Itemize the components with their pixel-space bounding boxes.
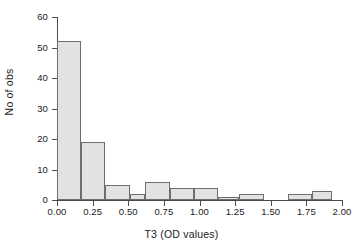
y-axis-tick <box>52 109 57 110</box>
histogram-bar <box>57 41 81 200</box>
histogram-bar <box>288 194 312 200</box>
y-axis-tick <box>52 78 57 79</box>
histogram-bar <box>239 194 263 200</box>
histogram-bar <box>312 191 332 200</box>
y-axis-tick-label: 20 <box>37 134 48 144</box>
histogram-chart: 0102030405060 0.000.250.500.751.001.251.… <box>0 0 363 248</box>
x-axis-tick-label: 0.25 <box>73 207 113 217</box>
x-axis-tick-label: 2.00 <box>322 207 362 217</box>
histogram-bar <box>194 188 218 200</box>
x-axis-tick-label: 1.25 <box>215 207 255 217</box>
histogram-bar <box>170 188 194 200</box>
y-axis-tick-label: 0 <box>43 195 48 205</box>
histogram-bar <box>81 142 105 200</box>
histogram-bar <box>105 185 129 200</box>
y-axis-tick-label: 60 <box>37 12 48 22</box>
x-axis-tick-label: 1.00 <box>180 207 220 217</box>
x-axis-tick-label: 0.75 <box>144 207 184 217</box>
y-axis-tick <box>52 170 57 171</box>
y-axis-tick <box>52 17 57 18</box>
histogram-bar <box>130 194 146 200</box>
x-axis-tick-label: 1.75 <box>286 207 326 217</box>
plot-area <box>57 17 342 200</box>
y-axis-tick-label: 40 <box>37 73 48 83</box>
y-axis-tick <box>52 48 57 49</box>
histogram-bar <box>218 197 239 200</box>
y-axis-tick <box>52 139 57 140</box>
y-axis-tick-label: 30 <box>37 104 48 114</box>
histogram-bar <box>145 182 169 200</box>
x-axis-tick-label: 0.00 <box>37 207 77 217</box>
x-axis-title: T3 (OD values) <box>0 228 363 240</box>
y-axis-tick-label: 10 <box>37 165 48 175</box>
y-axis-tick-label: 50 <box>37 43 48 53</box>
y-axis-title: No of obs <box>3 47 15 137</box>
x-axis-tick-label: 0.50 <box>108 207 148 217</box>
x-axis-tick-label: 1.50 <box>251 207 291 217</box>
